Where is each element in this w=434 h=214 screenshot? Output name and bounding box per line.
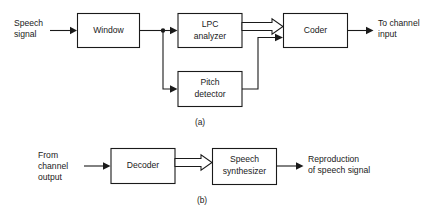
from-channel-output-label-line2: channel — [38, 161, 68, 171]
to-channel-input-label-line1: To channel — [378, 18, 420, 28]
from-channel-output-label-line1: From — [38, 150, 58, 160]
caption-panel-a: (a) — [195, 117, 205, 127]
wire-window-output-trunk — [140, 28, 166, 32]
block-speech-synthesizer-label-line2: synthesizer — [223, 166, 267, 176]
wire-window-to-pitch — [163, 31, 178, 93]
block-decoder-label: Decoder — [127, 160, 160, 170]
wire-synthesizer-output — [277, 162, 304, 169]
block-coder: Coder — [284, 14, 348, 48]
block-pitch-detector-label-line2: detector — [194, 89, 225, 99]
block-lpc-analyzer-label-line2: analyzer — [194, 31, 227, 41]
reproduction-label-line1: Reproduction — [308, 154, 359, 164]
block-decoder: Decoder — [111, 149, 175, 184]
wire-window-to-lpc — [163, 27, 178, 34]
block-pitch-detector: Pitch detector — [178, 72, 242, 107]
speech-signal-label-line1: Speech — [14, 18, 43, 28]
caption-panel-b: (b) — [197, 195, 207, 205]
speech-signal-label-line2: signal — [14, 29, 37, 39]
block-speech-synthesizer: Speech synthesizer — [213, 149, 277, 185]
block-pitch-detector-label-line1: Pitch — [200, 77, 219, 87]
block-window: Window — [78, 14, 140, 48]
figure-container: Speech signal Window LP — [0, 0, 434, 214]
wire-input-to-decoder — [84, 162, 111, 169]
wire-coder-output — [348, 27, 374, 34]
wire-input-to-window — [50, 27, 77, 34]
wire-decoder-to-synthesizer-bus — [175, 155, 212, 170]
wire-pitch-to-coder — [242, 34, 283, 89]
block-speech-synthesizer-label-line1: Speech — [230, 154, 259, 164]
to-channel-input-label-line2: input — [378, 29, 397, 39]
block-lpc-analyzer: LPC analyzer — [178, 14, 242, 48]
reproduction-label-line2: of speech signal — [308, 165, 370, 175]
block-diagram-svg: Speech signal Window LP — [0, 0, 434, 214]
from-channel-output-label-line3: output — [38, 172, 63, 182]
block-lpc-analyzer-label-line1: LPC — [202, 19, 219, 29]
block-coder-label: Coder — [304, 25, 328, 35]
block-window-label: Window — [93, 25, 124, 35]
wire-lpc-to-coder-bus — [242, 19, 283, 34]
